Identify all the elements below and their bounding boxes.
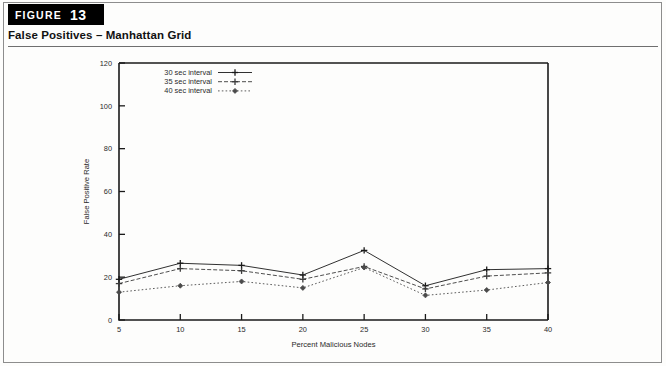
data-point: [300, 285, 305, 290]
legend-marker-3: [233, 88, 238, 93]
data-point: [545, 270, 551, 276]
figure-badge-word: FIGURE: [15, 9, 62, 21]
data-point: [178, 283, 183, 288]
data-point: [238, 268, 244, 274]
x-tick-label: 20: [299, 325, 307, 334]
series-line-3: [119, 268, 548, 296]
legend-marker-1: [232, 69, 238, 75]
x-tick-label: 5: [117, 325, 121, 334]
y-tick-label: 80: [104, 144, 112, 153]
data-point: [362, 265, 367, 270]
title-divider: [8, 46, 658, 47]
data-point: [484, 273, 490, 279]
y-axis-title: False Positive Rate: [82, 159, 91, 224]
y-tick-label: 40: [104, 230, 112, 239]
legend-label-1: 30 sec interval: [164, 68, 212, 77]
legend-label-2: 35 sec interval: [164, 77, 212, 86]
data-point: [239, 279, 244, 284]
y-tick-label: 120: [100, 59, 112, 68]
line-chart: 020406080100120510152025303540Percent Ma…: [0, 48, 666, 366]
x-tick-label: 25: [360, 325, 368, 334]
y-tick-label: 100: [100, 102, 112, 111]
figure-badge: FIGURE 13: [8, 4, 104, 25]
data-point: [116, 280, 122, 286]
chart-area: 020406080100120510152025303540Percent Ma…: [0, 48, 666, 366]
data-point: [177, 265, 183, 271]
data-point: [423, 293, 428, 298]
y-tick-label: 0: [108, 316, 112, 325]
axis-spines: [119, 63, 548, 320]
x-tick-label: 10: [176, 325, 184, 334]
y-tick-label: 60: [104, 187, 112, 196]
data-point: [484, 288, 489, 293]
figure-title: False Positives – Manhattan Grid: [8, 29, 191, 41]
legend-marker-2: [232, 79, 238, 85]
data-point: [484, 266, 490, 272]
data-point: [361, 247, 367, 253]
x-tick-label: 40: [544, 325, 552, 334]
x-tick-label: 35: [483, 325, 491, 334]
data-point: [546, 280, 551, 285]
x-tick-label: 30: [421, 325, 429, 334]
x-tick-label: 15: [237, 325, 245, 334]
data-point: [117, 290, 122, 295]
legend-label-3: 40 sec interval: [164, 86, 212, 95]
y-tick-label: 20: [104, 273, 112, 282]
figure-container: FIGURE 13 False Positives – Manhattan Gr…: [0, 0, 666, 366]
x-axis-title: Percent Malicious Nodes: [292, 340, 376, 349]
data-point: [300, 276, 306, 282]
data-point: [422, 286, 428, 292]
figure-badge-number: 13: [70, 8, 87, 22]
